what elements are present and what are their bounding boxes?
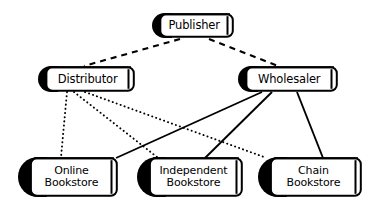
edge-publisher-distributor [84,39,180,66]
node-online-bookstore[interactable]: Online Bookstore [18,157,118,197]
node-label-independent-bookstore: Independent Bookstore [154,157,233,197]
node-wholesaler[interactable]: Wholesaler [238,66,338,92]
edge-distributor-independent [74,92,157,157]
edge-wholesaler-online [116,92,262,158]
node-chain-bookstore[interactable]: Chain Bookstore [258,157,362,197]
edge-wholesaler-chain [297,92,323,158]
node-label-chain-bookstore: Chain Bookstore [275,157,352,197]
edge-distributor-online [61,92,67,157]
distribution-channel-diagram: PublisherDistributorWholesalerOnline Boo… [0,0,375,209]
node-independent-bookstore[interactable]: Independent Bookstore [137,157,243,197]
node-distributor[interactable]: Distributor [38,66,135,92]
edge-publisher-wholesaler [209,39,278,66]
node-label-publisher: Publisher [164,13,224,38]
node-label-distributor: Distributor [50,66,125,92]
node-label-online-bookstore: Online Bookstore [35,157,108,197]
node-label-wholesaler: Wholesaler [250,66,328,92]
node-publisher[interactable]: Publisher [152,13,234,38]
edge-distributor-chain [85,92,264,157]
